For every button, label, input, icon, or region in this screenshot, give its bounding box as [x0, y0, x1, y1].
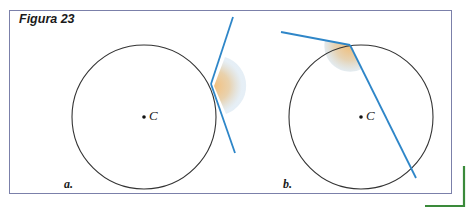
center-label-a: C	[149, 108, 158, 124]
center-point-a	[142, 115, 146, 119]
panel-a	[72, 17, 246, 189]
panel-label-b: b.	[283, 177, 292, 192]
center-label-b: C	[366, 108, 375, 124]
secant-line-b	[350, 45, 416, 178]
corner-mark	[425, 166, 464, 206]
figure-title: Figura 23	[19, 12, 75, 26]
panel-label-a: a.	[64, 177, 73, 192]
center-point-b	[359, 115, 363, 119]
tangent-line-b	[281, 32, 350, 45]
panel-b	[281, 32, 433, 189]
